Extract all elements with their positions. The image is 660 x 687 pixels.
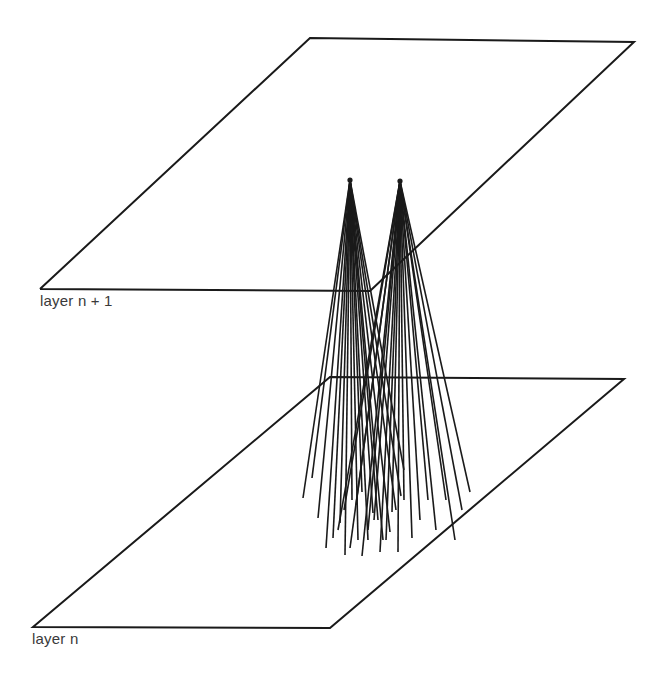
connection-line: [312, 180, 350, 478]
connection-line: [350, 180, 383, 540]
neuron-left-dot: [347, 177, 352, 182]
neuron-apexes: [347, 177, 402, 183]
neuron-right-dot: [397, 178, 402, 183]
connection-line: [400, 181, 470, 492]
upper-layer-plane: [40, 38, 634, 291]
connection-fans: [303, 180, 470, 556]
upper-layer-label: layer n + 1: [40, 292, 113, 309]
lower-layer-label: layer n: [32, 630, 78, 647]
neural-layers-diagram: [0, 0, 660, 687]
